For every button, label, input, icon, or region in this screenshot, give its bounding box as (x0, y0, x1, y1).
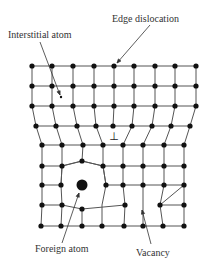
foreign-atom (77, 180, 88, 191)
lattice-atom (49, 63, 54, 68)
bond (61, 166, 62, 185)
bond (77, 126, 83, 145)
lattice-atom (140, 182, 145, 187)
bond (62, 161, 82, 166)
bond (61, 185, 62, 205)
edge-dislocation-arrow (117, 25, 150, 63)
lattice-atom (172, 83, 177, 88)
lattice-atom (29, 63, 34, 68)
lattice-atom (100, 142, 105, 147)
lattice-atom (111, 83, 116, 88)
bond (123, 126, 132, 145)
interstitial-atom (60, 96, 62, 98)
bond (94, 106, 96, 126)
lattice-atom (168, 123, 173, 128)
lattice-atom (29, 83, 34, 88)
lattice-atom (193, 83, 198, 88)
lattice-atom (91, 83, 96, 88)
lattice-atom (74, 123, 79, 128)
lattice-atom (79, 206, 84, 211)
bond (52, 106, 56, 126)
lattice-atom (131, 103, 136, 108)
lattice-atom (181, 182, 186, 187)
bond (123, 185, 125, 205)
lattice-atom (181, 223, 186, 228)
lattice-atom (79, 223, 84, 228)
interstitial-arrow-head (57, 91, 60, 95)
lattice-atom (172, 103, 177, 108)
bond (61, 205, 62, 226)
lattice-atom (172, 63, 177, 68)
bond (164, 126, 171, 145)
lattice-atom (161, 163, 166, 168)
lattice-atom (181, 163, 186, 168)
foreign-atom-arrow-head (76, 193, 79, 197)
bond (96, 126, 103, 145)
lattice-atom (120, 142, 125, 147)
bond (171, 106, 175, 126)
lattice-atom (59, 202, 64, 207)
lattice-atom (70, 63, 75, 68)
lattice-atom (140, 142, 145, 147)
interstitial-atom-label: Interstitial atom (8, 30, 72, 40)
lattice-atom (91, 63, 96, 68)
lattice-atom (53, 123, 58, 128)
lattice-atom (181, 202, 186, 207)
lattice-atom (149, 123, 154, 128)
bond (41, 205, 42, 226)
lattice-atom (59, 142, 64, 147)
lattice-atom (100, 163, 105, 168)
atomic-bonds (32, 66, 196, 226)
lattice-atom (140, 163, 145, 168)
lattice-atom (29, 103, 34, 108)
lattice-atom (110, 123, 115, 128)
lattice-defects-diagram: ⊥ (0, 0, 206, 271)
bond (32, 106, 36, 126)
bond (102, 185, 106, 205)
defect-markers: ⊥ (109, 130, 119, 143)
lattice-atom (131, 83, 136, 88)
lattice-atoms (29, 63, 198, 228)
lattice-atom (91, 103, 96, 108)
lattice-atom (111, 103, 116, 108)
lattice-atom (111, 63, 116, 68)
lattice-atom (93, 123, 98, 128)
bond (73, 106, 77, 126)
lattice-atom (157, 202, 162, 207)
bond (184, 126, 190, 145)
lattice-atom (152, 63, 157, 68)
lattice-atom (131, 63, 136, 68)
lattice-atom (181, 142, 186, 147)
bond (56, 126, 62, 145)
bond (190, 106, 196, 126)
bond (82, 161, 103, 166)
lattice-atom (129, 123, 134, 128)
bond (62, 205, 82, 209)
lattice-atom (161, 142, 166, 147)
lattice-atom (193, 63, 198, 68)
lattice-atom (49, 103, 54, 108)
label-arrows (40, 25, 151, 244)
bond (152, 106, 155, 126)
lattice-atom (120, 163, 125, 168)
lattice-atom (58, 223, 63, 228)
bond (160, 205, 163, 226)
lattice-atom (70, 103, 75, 108)
bond (36, 126, 42, 145)
lattice-atom (38, 223, 43, 228)
lattice-atom (122, 202, 127, 207)
bond (82, 205, 125, 209)
lattice-atom (39, 202, 44, 207)
lattice-atom (160, 223, 165, 228)
lattice-atom (103, 182, 108, 187)
lattice-atom (187, 123, 192, 128)
lattice-atom (193, 103, 198, 108)
lattice-atom (140, 223, 145, 228)
bond (132, 106, 134, 126)
lattice-atom (152, 103, 157, 108)
dislocation-symbol: ⊥ (109, 130, 119, 143)
lattice-atom (99, 223, 104, 228)
bond (143, 126, 152, 145)
lattice-atom (39, 163, 44, 168)
foreign-atom-arrow (62, 193, 79, 243)
